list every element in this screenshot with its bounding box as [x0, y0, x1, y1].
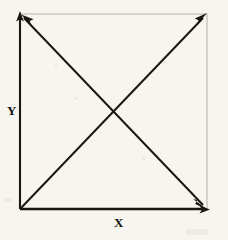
- diagonal-top-right-arrowhead-icon: [195, 13, 207, 25]
- y-axis-label: Y: [7, 104, 16, 117]
- x-axis-label: X: [114, 216, 123, 229]
- figure-canvas: Y X: [0, 0, 228, 240]
- axis-diagram-svg: [0, 0, 228, 240]
- diagonal-rising-line: [21, 18, 203, 208]
